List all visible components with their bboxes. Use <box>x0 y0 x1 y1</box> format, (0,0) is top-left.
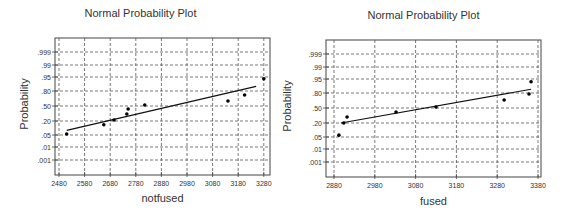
svg-text:2580: 2580 <box>77 180 93 187</box>
svg-text:.99: .99 <box>41 62 51 69</box>
right-chart-panel: Normal Probability Plot .999.99.95.80.50… <box>283 0 563 213</box>
svg-text:.50: .50 <box>312 105 322 112</box>
svg-text:.99: .99 <box>312 64 322 71</box>
right-x-axis-label: fused <box>326 195 541 207</box>
svg-text:.05: .05 <box>41 132 51 139</box>
svg-text:3080: 3080 <box>408 182 424 189</box>
svg-text:.01: .01 <box>41 144 51 151</box>
svg-text:2880: 2880 <box>154 180 170 187</box>
svg-text:3280: 3280 <box>489 182 505 189</box>
svg-text:.999: .999 <box>37 49 51 56</box>
svg-text:.80: .80 <box>41 88 51 95</box>
svg-text:.05: .05 <box>312 134 322 141</box>
svg-text:.001: .001 <box>37 157 51 164</box>
svg-text:3080: 3080 <box>205 180 221 187</box>
svg-text:3280: 3280 <box>256 180 272 187</box>
svg-text:3180: 3180 <box>449 182 465 189</box>
svg-text:2980: 2980 <box>367 182 383 189</box>
svg-text:.20: .20 <box>312 120 322 127</box>
left-chart-panel: Normal Probability Plot .999.99.95.80.50… <box>0 0 281 213</box>
svg-text:.95: .95 <box>312 76 322 83</box>
svg-text:2780: 2780 <box>128 180 144 187</box>
svg-text:.50: .50 <box>41 103 51 110</box>
left-chart-plot: .999.99.95.80.50.20.05.01.00124802580268… <box>0 0 281 213</box>
left-x-axis-label: notfused <box>55 192 270 204</box>
svg-text:3380: 3380 <box>530 182 546 189</box>
svg-text:.999: .999 <box>308 51 322 58</box>
svg-text:2980: 2980 <box>179 180 195 187</box>
svg-text:2680: 2680 <box>102 180 118 187</box>
svg-text:.20: .20 <box>41 118 51 125</box>
right-y-axis-label: Probability <box>281 76 293 136</box>
svg-text:.95: .95 <box>41 74 51 81</box>
svg-text:2480: 2480 <box>51 180 67 187</box>
svg-text:.01: .01 <box>312 146 322 153</box>
right-chart-plot: .999.99.95.80.50.20.05.01.00128802980308… <box>283 0 563 213</box>
svg-text:.001: .001 <box>308 159 322 166</box>
svg-text:3180: 3180 <box>230 180 246 187</box>
svg-text:.80: .80 <box>312 90 322 97</box>
svg-text:2880: 2880 <box>326 182 342 189</box>
left-y-axis-label: Probability <box>18 74 30 134</box>
